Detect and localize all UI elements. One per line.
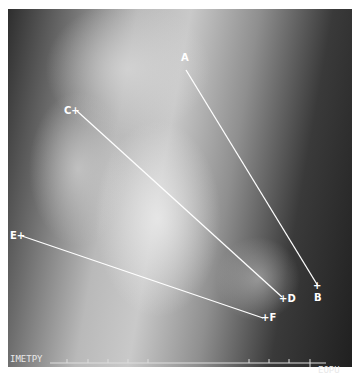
ruler-left-label: IMETPY bbox=[10, 355, 43, 364]
line-a-b bbox=[186, 70, 318, 286]
marker-e-label: E+ bbox=[10, 231, 25, 241]
xray-image bbox=[8, 9, 352, 367]
line-c-d bbox=[77, 111, 282, 297]
marker-f-label: +F bbox=[261, 313, 276, 323]
marker-b-plus: + bbox=[313, 281, 321, 291]
marker-a-label: A bbox=[181, 53, 189, 63]
ruler-right-label: EOPU bbox=[318, 366, 340, 375]
marker-c-label: C+ bbox=[64, 106, 80, 116]
marker-b-label: B bbox=[314, 293, 322, 303]
measurement-overlay bbox=[8, 9, 352, 367]
line-e-f bbox=[22, 236, 263, 318]
marker-d-label: +D bbox=[279, 294, 296, 304]
